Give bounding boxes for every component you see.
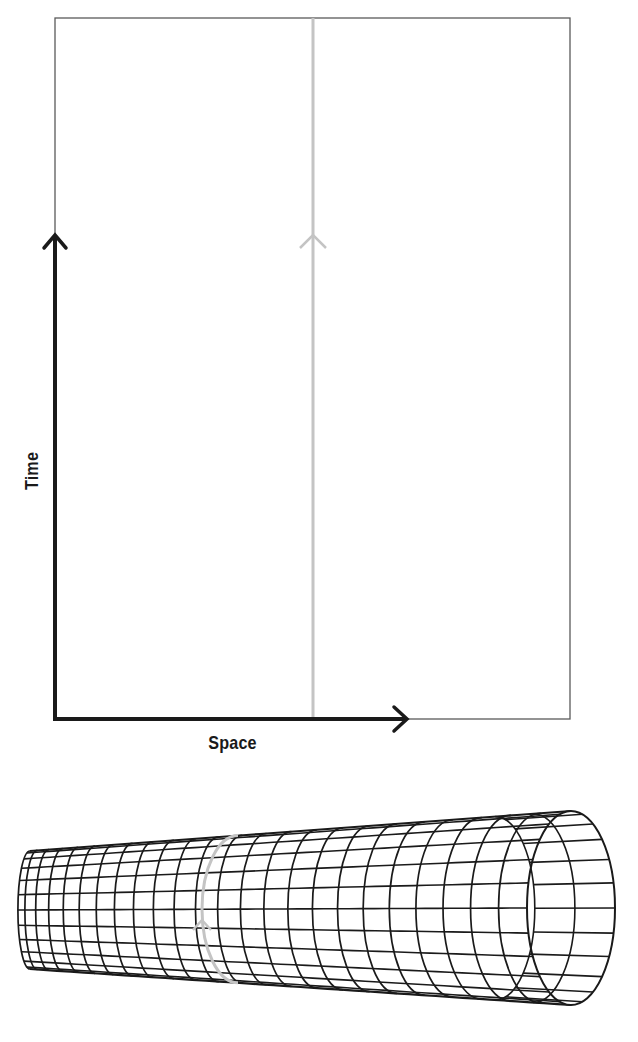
cylinder-generator-line [18,925,528,933]
spacetime-cylinder [18,811,615,1005]
cylinder-generator-line [24,961,549,992]
spacetime-diagram [44,18,570,731]
cylinder-generator-line [18,883,528,895]
space-axis-label: Space [208,732,256,754]
cylinder-generator-line [20,860,533,881]
figure-canvas [0,0,638,1042]
cylinder-generator-line [27,967,560,1002]
cylinder-generator-line [20,940,533,957]
cylinder-generator-line [18,908,527,910]
time-axis-label: Time [21,452,43,490]
